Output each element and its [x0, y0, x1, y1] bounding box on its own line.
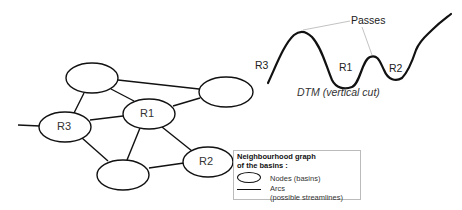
node-label-r2: R2 — [199, 156, 213, 167]
arc-r3-r1 — [90, 116, 123, 120]
arc-topright-r1 — [173, 98, 200, 106]
node-label-r1: R1 — [140, 108, 154, 119]
graph-nodes — [39, 63, 253, 190]
legend-title-line2: of the basins : — [237, 162, 316, 171]
node-bottom — [97, 160, 149, 190]
arc-r1-r2 — [162, 127, 192, 151]
dtm-label-r3: R3 — [255, 60, 268, 71]
legend-arcs-label: Arcs (possible streamlines) — [270, 185, 343, 202]
diagram-canvas — [0, 0, 462, 210]
dtm-label-r2: R2 — [389, 63, 402, 74]
pointer-pass-1 — [303, 21, 350, 30]
node-label-r3: R3 — [57, 121, 71, 132]
pointer-pass-2 — [362, 27, 372, 55]
arc-r1-bottom — [127, 128, 140, 160]
legend-arc-line-icon — [237, 189, 261, 190]
node-top-right — [199, 77, 253, 107]
arc-r3-bottom — [82, 138, 108, 161]
legend-box: Neighbourhood graph of the basins : Node… — [233, 150, 361, 200]
dtm-label-r1: R1 — [339, 62, 352, 73]
passes-label: Passes — [351, 15, 385, 26]
legend-title: Neighbourhood graph of the basins : — [237, 153, 316, 170]
node-top-left — [66, 63, 118, 93]
arc-topleft-r1 — [111, 89, 134, 101]
legend-nodes-label: Nodes (basins) — [270, 174, 320, 183]
arc-r3-external — [18, 125, 40, 126]
legend-arcs-label-line2: (possible streamlines) — [270, 194, 343, 203]
dtm-caption: DTM (vertical cut) — [297, 87, 380, 98]
legend-node-ellipse-icon — [237, 172, 261, 183]
arc-topleft-topright — [118, 80, 199, 89]
arc-topleft-r3 — [74, 93, 84, 113]
arc-bottom-r2 — [149, 163, 184, 168]
